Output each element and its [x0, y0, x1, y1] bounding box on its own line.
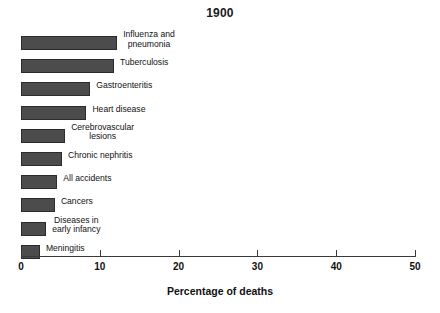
x-axis-line [21, 256, 415, 257]
bar-label: Gastroenteritis [96, 81, 152, 91]
bar-label: Influenza and pneumonia [123, 30, 175, 49]
x-tick [21, 250, 22, 257]
x-tick [257, 250, 258, 257]
bar-label: Heart disease [92, 105, 145, 115]
bar-label: Tuberculosis [120, 58, 168, 68]
x-tick [415, 250, 416, 257]
bar-label: Cerebrovascular lesions [71, 123, 134, 142]
bar-label: Meningitis [46, 244, 85, 254]
x-tick-label: 40 [331, 261, 342, 272]
bar [21, 82, 90, 96]
bar-label: All accidents [63, 174, 111, 184]
bar [21, 59, 114, 73]
x-tick [179, 250, 180, 257]
bar-row: All accidents [21, 175, 57, 189]
bar-label: Cancers [61, 197, 93, 207]
plot-area: Influenza and pneumoniaTuberculosisGastr… [0, 0, 440, 313]
bar [21, 36, 117, 50]
bar-label: Chronic nephritis [68, 151, 132, 161]
bar-row: Gastroenteritis [21, 82, 90, 96]
x-axis-title: Percentage of deaths [0, 285, 440, 297]
bar-row: Influenza and pneumonia [21, 36, 117, 50]
bar-row: Heart disease [21, 106, 86, 120]
bar-row: Tuberculosis [21, 59, 114, 73]
bar [21, 175, 57, 189]
bar [21, 222, 46, 236]
bar-row: Cancers [21, 198, 55, 212]
bar-row: Chronic nephritis [21, 152, 62, 166]
x-tick-label: 20 [173, 261, 184, 272]
bar [21, 106, 86, 120]
bar [21, 129, 65, 143]
x-tick-label: 50 [409, 261, 420, 272]
bar [21, 152, 62, 166]
bar-row: Diseases in early infancy [21, 222, 46, 236]
bar-chart: 1900 Influenza and pneumoniaTuberculosis… [0, 0, 440, 313]
x-tick-label: 10 [94, 261, 105, 272]
bar-row: Cerebrovascular lesions [21, 129, 65, 143]
bar-label: Diseases in early infancy [52, 216, 100, 235]
bar [21, 198, 55, 212]
x-tick-label: 30 [252, 261, 263, 272]
x-tick [336, 250, 337, 257]
x-tick [100, 250, 101, 257]
x-tick-label: 0 [18, 261, 24, 272]
